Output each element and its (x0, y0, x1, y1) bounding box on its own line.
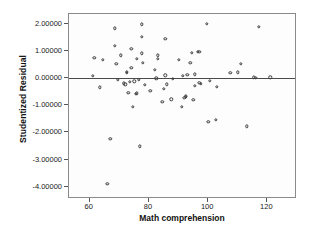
data-point (135, 92, 138, 95)
data-point (129, 47, 132, 50)
y-axis-tick-label: -2.00000 (0, 127, 62, 136)
data-point (205, 22, 208, 25)
data-point (113, 26, 116, 29)
data-point (124, 82, 127, 85)
y-axis-tick-label: 0.00000 (0, 72, 62, 81)
data-point (153, 68, 156, 71)
data-point (115, 62, 118, 65)
data-point (138, 145, 141, 148)
data-point (257, 25, 260, 28)
data-point (206, 120, 209, 123)
x-axis-tick-label: 60 (85, 202, 93, 211)
data-point (141, 61, 144, 64)
y-axis-tick-label: 1.00000 (0, 45, 62, 54)
y-axis-tick-label: -3.00000 (0, 154, 62, 163)
data-point (140, 52, 143, 55)
data-point (171, 77, 174, 80)
x-axis-tick-label: 120 (260, 202, 273, 211)
data-point (161, 100, 164, 103)
data-point (116, 78, 119, 81)
data-point (106, 182, 109, 185)
data-point (131, 105, 134, 108)
data-point (236, 71, 239, 74)
data-point (193, 84, 196, 87)
data-point (127, 91, 130, 94)
data-point (229, 71, 232, 74)
data-point (143, 83, 146, 86)
y-axis-tick-label: -4.00000 (0, 181, 62, 190)
plot-area (68, 13, 296, 198)
data-point (164, 74, 167, 77)
data-point (186, 73, 189, 76)
scatter-plot-figure: Studentized Residual 2.000001.000000.000… (0, 0, 315, 237)
data-point (180, 105, 183, 108)
data-point (92, 56, 95, 59)
data-point (140, 23, 143, 26)
y-axis-tick-label: 2.00000 (0, 18, 62, 27)
data-point (155, 77, 158, 80)
data-point (129, 66, 132, 69)
data-point (190, 51, 193, 54)
data-point (162, 87, 165, 90)
data-point (156, 57, 159, 60)
data-point (164, 37, 167, 40)
data-point (109, 137, 112, 140)
data-point (215, 85, 218, 88)
x-axis-title: Math comprehension (68, 213, 296, 223)
x-axis-tick-label: 100 (201, 202, 214, 211)
data-point (98, 86, 101, 89)
data-point (177, 58, 180, 61)
data-point (101, 58, 104, 61)
data-point (169, 97, 172, 100)
data-point (149, 89, 152, 92)
data-point (119, 54, 122, 57)
data-point (125, 71, 128, 74)
data-point (239, 62, 242, 65)
x-axis-tick-label: 80 (144, 202, 152, 211)
data-point (214, 118, 217, 121)
data-point (140, 35, 143, 38)
data-point (128, 80, 131, 83)
data-point (208, 79, 211, 82)
data-point (245, 125, 248, 128)
data-point (137, 78, 140, 81)
data-point (181, 74, 184, 77)
data-point (135, 57, 138, 60)
data-point (199, 82, 202, 85)
data-point (198, 50, 201, 53)
data-point (113, 44, 116, 47)
data-point (193, 72, 196, 75)
y-axis-tick-label: -1.00000 (0, 100, 62, 109)
data-point (189, 61, 192, 64)
data-point (165, 82, 168, 85)
zero-reference-line (69, 78, 295, 79)
data-point (192, 98, 195, 101)
data-point (132, 80, 135, 83)
data-point (184, 95, 187, 98)
